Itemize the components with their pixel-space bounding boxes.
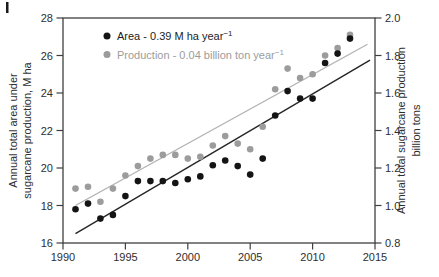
area-data-point — [122, 193, 129, 200]
area-data-point — [297, 95, 304, 102]
y-left-tick-label: 18 — [41, 200, 53, 212]
x-tick-label: 1990 — [51, 251, 75, 263]
area-data-point — [72, 206, 79, 213]
production-data-point — [322, 52, 329, 59]
y-left-tick-label: 24 — [41, 87, 53, 99]
area-data-point — [222, 157, 229, 164]
production-data-point — [272, 86, 279, 93]
production-data-point — [284, 65, 291, 72]
production-data-point — [259, 124, 266, 131]
area-data-point — [272, 112, 279, 119]
production-data-point — [172, 152, 179, 159]
figure-crop-mark — [6, 2, 9, 13]
production-data-point — [72, 185, 79, 192]
area-data-point — [135, 178, 142, 185]
area-data-point — [322, 60, 329, 67]
y-left-tick-label: 20 — [41, 162, 53, 174]
production-data-point — [297, 75, 304, 82]
production-data-point — [210, 142, 217, 149]
y-left-tick-label: 28 — [41, 12, 53, 24]
y-left-tick-label: 16 — [41, 237, 53, 249]
production-data-point — [160, 152, 167, 159]
production-data-point — [147, 155, 154, 162]
area-data-point — [147, 178, 154, 185]
area-data-point — [247, 171, 254, 178]
production-data-point — [122, 172, 129, 179]
area-data-point — [172, 180, 179, 187]
production-data-point — [197, 154, 204, 161]
x-tick-label: 2005 — [238, 251, 262, 263]
area-data-point — [110, 212, 117, 219]
y-right-tick-label: 2.0 — [385, 12, 400, 24]
area-data-point — [309, 95, 316, 102]
production-data-point — [309, 71, 316, 78]
legend-label: Production - 0.04 billion ton year−1 — [117, 48, 284, 61]
y-left-tick-label: 22 — [41, 125, 53, 137]
y-right-tick-label: 0.8 — [385, 237, 400, 249]
x-tick-label: 2000 — [176, 251, 200, 263]
legend-marker — [104, 33, 111, 40]
y-right-axis-title-line1: Annual total sugarcane production — [395, 47, 407, 214]
x-tick-label: 2015 — [363, 251, 387, 263]
area-data-point — [334, 50, 341, 57]
area-data-point — [197, 173, 204, 180]
y-left-axis-title-line1: Annual total area under — [7, 73, 19, 188]
y-left-axis-title-line2: sugarcane production, M ha — [21, 61, 33, 198]
area-data-point — [259, 155, 266, 162]
area-data-point — [234, 163, 241, 170]
x-tick-label: 2010 — [300, 251, 324, 263]
production-data-point — [135, 163, 142, 170]
production-data-point — [247, 146, 254, 153]
y-left-tick-label: 26 — [41, 50, 53, 62]
area-data-point — [85, 200, 92, 207]
production-data-point — [97, 199, 104, 206]
sugarcane-scatter-chart: 199019952000200520102015161820222426280.… — [0, 0, 439, 277]
legend-marker — [104, 51, 111, 58]
area-data-point — [160, 178, 167, 185]
production-data-point — [85, 184, 92, 191]
production-data-point — [222, 133, 229, 140]
area-data-point — [347, 35, 354, 42]
area-data-point — [97, 215, 104, 222]
figure-container: 199019952000200520102015161820222426280.… — [0, 0, 439, 277]
production-data-point — [234, 140, 241, 147]
area-data-point — [284, 88, 291, 95]
x-tick-label: 1995 — [113, 251, 137, 263]
area-data-point — [185, 176, 192, 183]
area-data-point — [210, 162, 217, 169]
production-data-point — [110, 185, 117, 192]
y-right-axis-title-line2: billion tons — [410, 104, 422, 156]
legend-label: Area - 0.39 M ha year−1 — [117, 29, 233, 42]
production-data-point — [185, 155, 192, 162]
